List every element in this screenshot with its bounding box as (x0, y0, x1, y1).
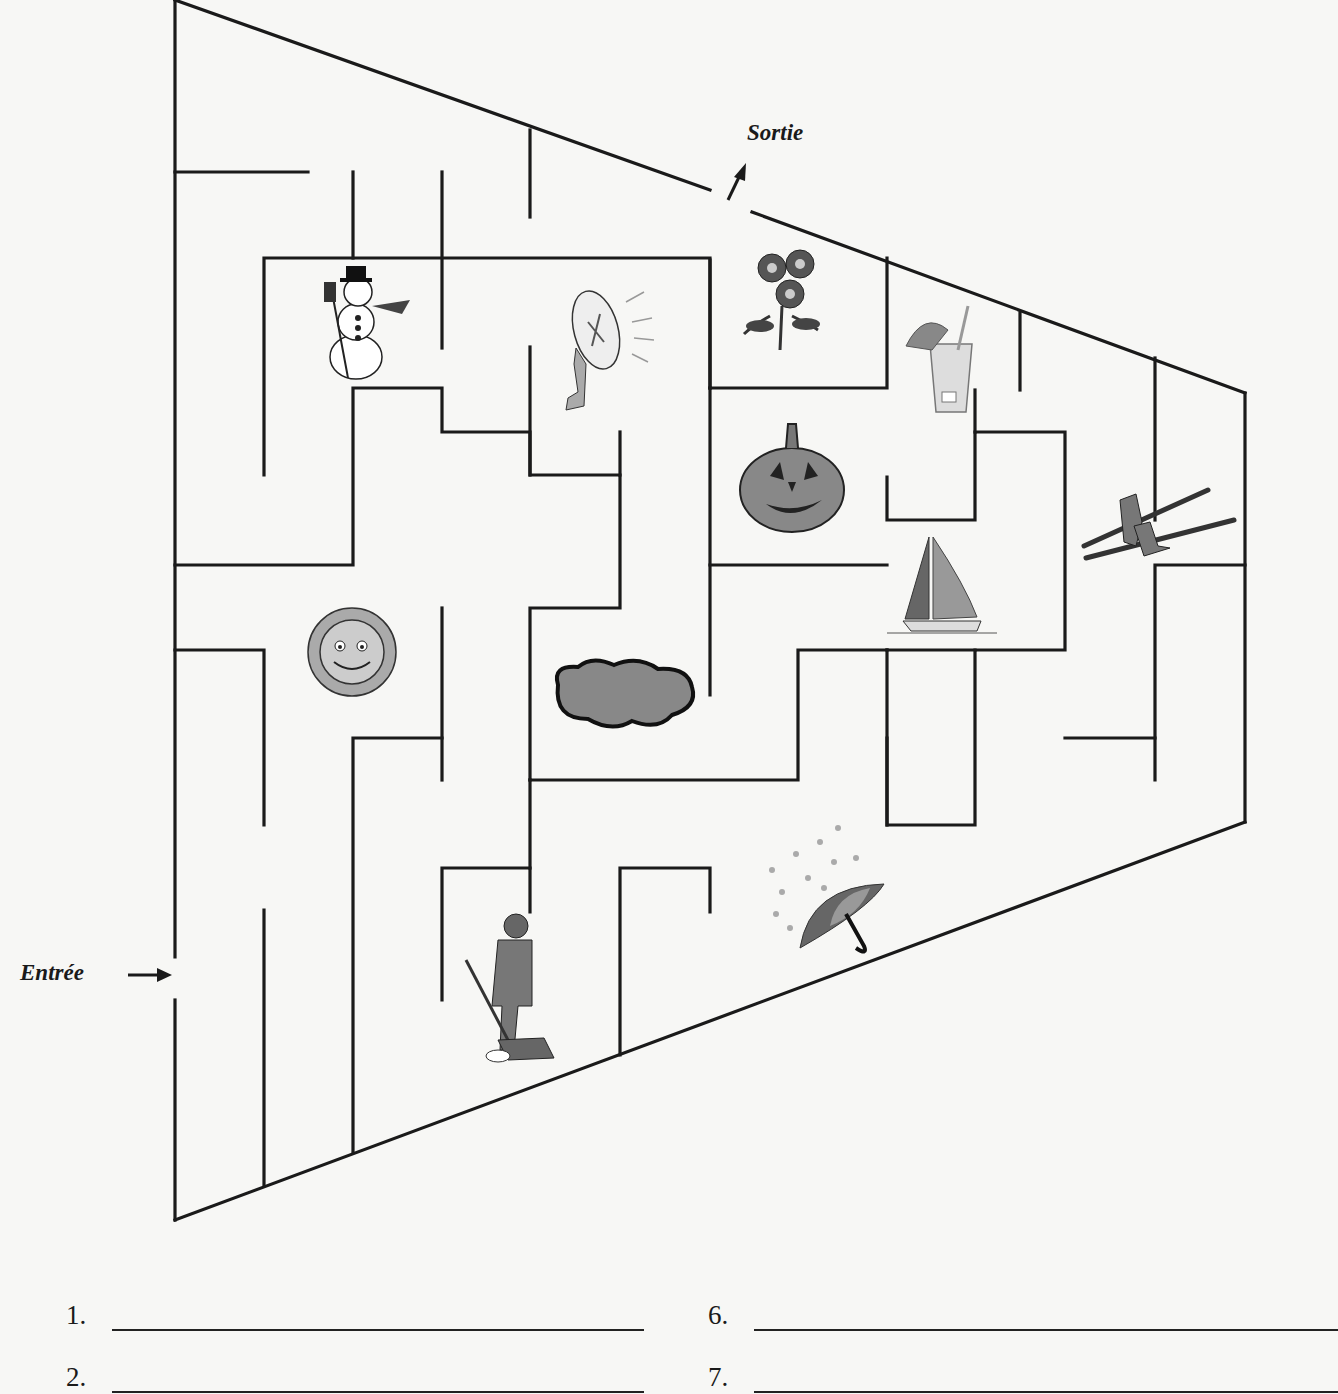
electric-fan-icon (564, 286, 654, 410)
answer-line-input[interactable] (112, 1329, 644, 1331)
answer-number: 7. (708, 1362, 754, 1393)
entrance-arrow-icon (128, 968, 172, 982)
sailboat-icon (887, 537, 997, 633)
answer-line-input[interactable] (754, 1391, 1338, 1393)
answer-line-input[interactable] (754, 1329, 1338, 1331)
tropical-drink-icon (906, 306, 972, 412)
snowman-icon (324, 266, 410, 379)
answer-number: 1. (66, 1300, 112, 1331)
answer-number: 6. (708, 1300, 754, 1331)
maze (0, 0, 1338, 1394)
umbrella-rain-icon (769, 825, 884, 952)
answer-row-1: 1. (66, 1300, 644, 1331)
skis-icon (1084, 490, 1234, 558)
answer-row-2: 2. (66, 1362, 644, 1393)
answer-row-7: 7. (708, 1362, 1338, 1393)
answer-number: 2. (66, 1362, 112, 1393)
entrance-label: Entrée (20, 960, 84, 986)
sun-icon (308, 608, 396, 696)
cloud-icon (557, 660, 693, 726)
answer-line-input[interactable] (112, 1391, 644, 1393)
jack-o-lantern-icon (740, 424, 844, 532)
exit-arrow-icon (728, 163, 746, 200)
answer-row-6: 6. (708, 1300, 1338, 1331)
flowers-icon (744, 250, 820, 350)
exit-label: Sortie (747, 120, 803, 146)
person-shoveling-snow-icon (466, 914, 554, 1062)
